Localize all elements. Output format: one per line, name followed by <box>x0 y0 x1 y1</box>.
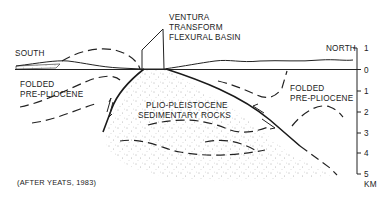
label-basin-3: FLEXURAL BASIN <box>169 33 241 42</box>
basin-outline <box>142 29 164 69</box>
fault-arrow-down <box>262 119 275 129</box>
north-fold-lower <box>292 106 343 126</box>
label-basin-1: VENTURA <box>169 13 210 22</box>
depth-scale: 1 0 1 2 3 4 5 KM <box>353 44 377 189</box>
label-left-unit-2: PRE-PLIOCENE <box>20 90 84 99</box>
scale-tick-0: 0 <box>364 66 369 75</box>
south-fold-3 <box>32 104 95 123</box>
label-center-unit-2: SEDIMENTARY ROCKS <box>138 111 231 120</box>
cross-section-svg: 1 0 1 2 3 4 5 KM SOUTH NORTH VENTURA TRA… <box>0 0 389 198</box>
cross-section-figure: 1 0 1 2 3 4 5 KM SOUTH NORTH VENTURA TRA… <box>0 0 389 198</box>
scale-tick-3: 3 <box>364 129 369 138</box>
scale-tick-1-above: 1 <box>364 44 369 53</box>
label-south: SOUTH <box>15 49 45 58</box>
citation: (AFTER YEATS, 1983) <box>17 178 96 187</box>
label-north: NORTH <box>326 44 356 53</box>
label-basin-2: TRANSFORM <box>169 23 223 32</box>
label-center-unit-1: PLIO-PLEISTOCENE <box>146 101 228 110</box>
label-left-unit-1: FOLDED <box>20 80 54 89</box>
scale-tick-4: 4 <box>364 149 369 158</box>
scale-unit: KM <box>364 180 377 189</box>
label-right-unit-2: PRE-PLIOCENE <box>290 94 354 103</box>
scale-tick-5: 5 <box>364 170 369 179</box>
scale-tick-1: 1 <box>364 87 369 96</box>
scale-tick-2: 2 <box>364 108 369 117</box>
topographic-surface <box>16 60 353 69</box>
label-right-unit-1: FOLDED <box>290 84 324 93</box>
